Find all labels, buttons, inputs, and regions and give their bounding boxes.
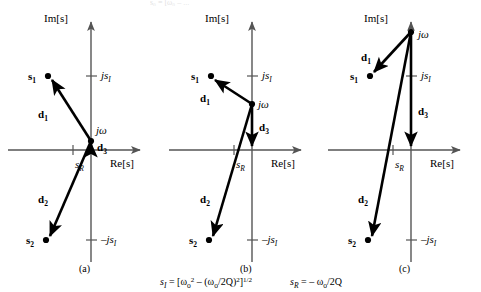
js-pos-label-a: jsI bbox=[99, 69, 111, 84]
pole-s2-b bbox=[206, 237, 212, 243]
caption-a: (a) bbox=[79, 263, 90, 275]
pole-s2-c bbox=[365, 237, 371, 243]
js-pos-label-c: jsI bbox=[419, 69, 431, 84]
caption-c: (c) bbox=[399, 263, 410, 275]
js-neg-label-c: –jsI bbox=[420, 233, 437, 248]
panel-b: Im[s] Re[s] sR jsI –jsI s1 s2 jω d1 d2 bbox=[169, 12, 301, 275]
vector-d3-label-a: d3 bbox=[97, 141, 107, 156]
pole-s2-a bbox=[43, 237, 49, 243]
vector-d1-b bbox=[215, 80, 252, 104]
vector-d3-label-c: d3 bbox=[418, 105, 428, 120]
test-point-jomega-b bbox=[249, 101, 255, 107]
test-point-jomega-c bbox=[408, 29, 414, 35]
pole-s1-c bbox=[367, 73, 373, 79]
im-axis-label-a: Im[s] bbox=[44, 12, 68, 24]
panel-a: Im[s] Re[s] sR jsI –jsI s1 s2 jω d1 d2 bbox=[8, 12, 140, 275]
panel-c: Im[s] Re[s] sR jsI –jsI s1 s2 jω d1 d2 bbox=[328, 12, 460, 275]
js-pos-label-b: jsI bbox=[260, 69, 272, 84]
vector-d3-label-b: d3 bbox=[259, 121, 269, 136]
pole-s1-a bbox=[45, 73, 51, 79]
pole-s1-b bbox=[208, 73, 214, 79]
im-axis-label-c: Im[s] bbox=[364, 12, 388, 24]
js-neg-label-b: –jsI bbox=[261, 233, 278, 248]
re-axis-label-a: Re[s] bbox=[110, 157, 134, 169]
caption-b: (b) bbox=[240, 263, 252, 275]
pole-s1-label-a: s1 bbox=[28, 70, 36, 85]
vector-d2-label-a: d2 bbox=[38, 193, 48, 208]
jomega-label-a: jω bbox=[94, 124, 107, 136]
test-point-jomega-a bbox=[88, 138, 94, 144]
sr-tick-label-b: sR bbox=[236, 158, 245, 173]
im-axis-label-b: Im[s] bbox=[205, 12, 229, 24]
js-neg-label-a: –jsI bbox=[100, 233, 117, 248]
vector-d2-label-b: d2 bbox=[200, 193, 210, 208]
pole-s2-label-c: s2 bbox=[348, 234, 356, 249]
s-plane-vector-figure: Im[s] Re[s] sR jsI –jsI s1 s2 jω d1 d2 bbox=[0, 0, 481, 292]
vector-d2-label-c: d2 bbox=[358, 193, 368, 208]
vector-d1-label-b: d1 bbox=[200, 92, 210, 107]
vector-d1-label-c: d1 bbox=[361, 51, 371, 66]
jomega-label-c: jω bbox=[416, 28, 429, 40]
pole-s2-label-a: s2 bbox=[26, 234, 34, 249]
vector-d2-b bbox=[213, 104, 252, 236]
sr-tick-label-c: sR bbox=[395, 158, 404, 173]
re-axis-label-b: Re[s] bbox=[271, 157, 295, 169]
jomega-label-b: jω bbox=[256, 98, 269, 110]
formula-si: sI = [ωo2 – (ωo/2Q)2]1/2 bbox=[160, 276, 253, 290]
pole-s1-label-b: s1 bbox=[191, 70, 199, 85]
formula-sr: sR = – ωo/2Q bbox=[290, 276, 343, 290]
re-axis-label-c: Re[s] bbox=[430, 157, 454, 169]
formula-line: sI = [ωo2 – (ωo/2Q)2]1/2 sR = – ωo/2Q bbox=[160, 276, 343, 290]
vector-d1-a bbox=[52, 80, 91, 141]
vector-d2-a bbox=[50, 141, 91, 236]
pole-s1-label-c: s1 bbox=[350, 70, 358, 85]
vector-d1-label-a: d1 bbox=[38, 108, 48, 123]
vector-d2-c bbox=[372, 32, 411, 236]
pole-s2-label-b: s2 bbox=[189, 234, 197, 249]
